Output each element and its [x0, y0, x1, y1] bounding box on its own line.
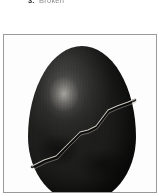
figure-caption: 3. Broken	[28, 0, 64, 6]
caption-label: 3.	[28, 0, 35, 5]
figure-caption-strip: 3. Broken	[0, 0, 168, 30]
egg-image	[4, 35, 156, 192]
figure-frame	[3, 34, 157, 193]
egg-body	[28, 46, 136, 192]
caption-text: Broken	[39, 0, 64, 5]
photo-area	[4, 35, 156, 192]
